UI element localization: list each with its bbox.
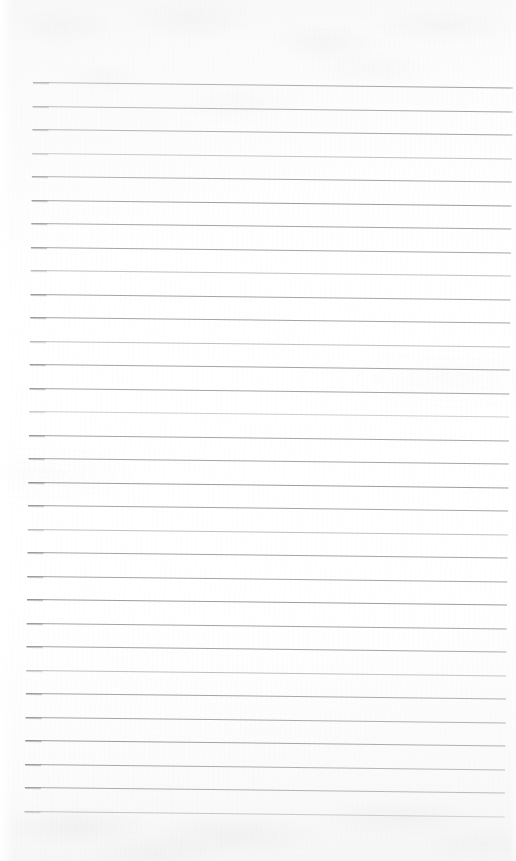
writing-area[interactable] [33,82,513,812]
scanned-page [0,0,516,861]
